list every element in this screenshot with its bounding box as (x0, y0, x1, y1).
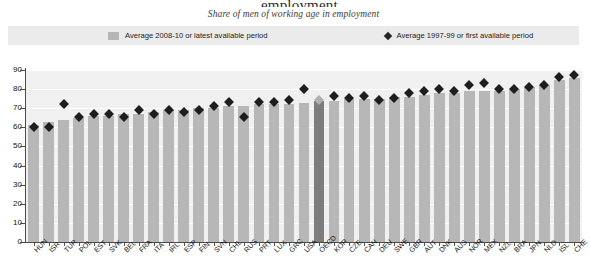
bar (389, 97, 400, 242)
bar (509, 89, 520, 242)
y-tick-label: 80 (0, 85, 22, 93)
legend-item-bars: Average 2008-10 or latest available peri… (108, 31, 268, 40)
bar (539, 85, 550, 242)
y-tick-label: 50 (0, 142, 22, 150)
y-tick-mark (20, 166, 25, 167)
diamond-marker (479, 78, 489, 88)
bar (208, 108, 219, 242)
bar (479, 91, 490, 242)
bar (269, 104, 280, 242)
title-block: ...employment Share of men of working ag… (0, 0, 587, 19)
bar (193, 108, 204, 242)
plot-area (26, 70, 582, 242)
diamond-marker (299, 84, 309, 94)
bar (103, 116, 114, 242)
y-tick-mark (20, 70, 25, 71)
bar (359, 99, 370, 242)
y-tick-label: 70 (0, 104, 22, 112)
bar (284, 104, 295, 242)
y-tick-mark (20, 108, 25, 109)
bar (524, 87, 535, 242)
bar (178, 110, 189, 242)
bar (163, 110, 174, 242)
legend-bar-swatch-icon (108, 32, 119, 40)
bar (118, 114, 129, 242)
bar (238, 106, 249, 242)
y-tick-mark (20, 223, 25, 224)
bar (329, 101, 340, 242)
bar (554, 80, 565, 242)
chart-legend: Average 2008-10 or latest available peri… (8, 26, 579, 45)
bar (43, 122, 54, 242)
bar (58, 120, 69, 242)
y-tick-mark (20, 89, 25, 90)
chart-title: ...employment (0, 0, 587, 7)
legend-item-diamonds: Average 1997-99 or first available perio… (385, 31, 534, 40)
y-tick-mark (20, 204, 25, 205)
bar (28, 125, 39, 242)
bar (254, 104, 265, 242)
bar (464, 91, 475, 242)
bar (419, 95, 430, 242)
y-tick-mark (20, 185, 25, 186)
bar (148, 112, 159, 242)
y-tick-label: 20 (0, 200, 22, 208)
bar (494, 91, 505, 242)
y-tick-label: 0 (0, 238, 22, 246)
bar (299, 103, 310, 243)
y-tick-label: 30 (0, 181, 22, 189)
legend-diamond-swatch-icon (383, 31, 391, 39)
y-tick-label: 60 (0, 123, 22, 131)
legend-bar-label: Average 2008-10 or latest available peri… (125, 31, 268, 40)
y-tick-label: 10 (0, 219, 22, 227)
y-tick-mark (20, 242, 25, 243)
legend-diamond-label: Average 1997-99 or first available perio… (397, 31, 534, 40)
bar (223, 106, 234, 242)
gridline (26, 70, 582, 71)
bar (434, 93, 445, 242)
y-axis-labels: 0102030405060708090 (0, 58, 22, 244)
y-tick-mark (20, 127, 25, 128)
bar (133, 114, 144, 242)
bar (344, 99, 355, 242)
bar (88, 116, 99, 242)
y-tick-label: 90 (0, 66, 22, 74)
bar (449, 93, 460, 242)
plot-wrapper: 0102030405060708090 HUNISRTURPOLESTSVKBE… (0, 58, 587, 276)
bar (404, 97, 415, 242)
y-tick-label: 40 (0, 162, 22, 170)
bar (73, 118, 84, 242)
y-tick-mark (20, 146, 25, 147)
bar (314, 101, 325, 242)
chart-subtitle: Share of men of working age in employmen… (0, 7, 587, 19)
bar (569, 78, 580, 242)
bar (374, 99, 385, 242)
